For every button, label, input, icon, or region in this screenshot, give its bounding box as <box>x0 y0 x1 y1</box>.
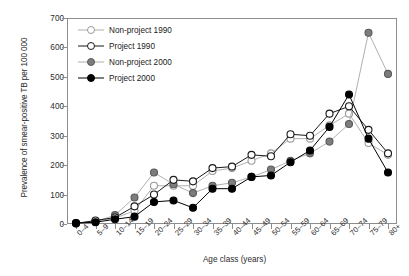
data-point <box>287 159 294 166</box>
data-point <box>131 213 138 220</box>
data-point <box>190 178 197 185</box>
data-point <box>248 173 255 180</box>
legend-key-icon <box>78 56 104 68</box>
data-point <box>365 135 372 142</box>
data-point <box>151 191 158 198</box>
data-point <box>346 120 353 127</box>
data-point <box>131 194 138 201</box>
y-tick-label: 300 <box>34 131 64 140</box>
data-point <box>73 220 80 227</box>
legend-label: Non-project 1990 <box>109 26 172 35</box>
y-tick-label: 700 <box>34 14 64 23</box>
data-point <box>385 169 392 176</box>
data-point <box>170 197 177 204</box>
data-point <box>268 172 275 179</box>
data-point <box>151 198 158 205</box>
y-tick-label: 600 <box>34 43 64 52</box>
data-point <box>209 165 216 172</box>
x-tick-label: 80+ <box>387 222 402 237</box>
data-point <box>287 131 294 138</box>
data-point <box>170 176 177 183</box>
legend-label: Project 1990 <box>109 42 155 51</box>
data-point <box>326 110 333 117</box>
legend-key-icon <box>78 24 104 36</box>
data-point <box>209 185 216 192</box>
legend-item-non-project-2000: Non-project 2000 <box>78 54 228 70</box>
legend-label: Project 2000 <box>109 74 155 83</box>
data-point <box>248 151 255 158</box>
data-point <box>326 138 333 145</box>
data-point <box>307 132 314 139</box>
y-tick-label: 400 <box>34 102 64 111</box>
series-project-2000 <box>73 91 392 227</box>
chart-figure: Prevalence of smear-positive TB per 100 … <box>0 0 409 276</box>
data-point <box>385 70 392 77</box>
y-tick-label: 200 <box>34 161 64 170</box>
data-point <box>131 203 138 210</box>
data-point <box>229 163 236 170</box>
data-point <box>307 147 314 154</box>
data-point <box>92 219 99 226</box>
data-point <box>229 185 236 192</box>
data-point <box>346 91 353 98</box>
data-point <box>112 216 119 223</box>
series-line <box>76 95 388 224</box>
legend-item-non-project-1990: Non-project 1990 <box>78 22 228 38</box>
data-point <box>365 29 372 36</box>
data-point <box>346 103 353 110</box>
data-point <box>385 150 392 157</box>
data-point <box>190 190 197 197</box>
y-axis-title: Prevalence of smear-positive TB per 100 … <box>20 8 29 228</box>
x-axis-title: Age class (years) <box>67 255 402 264</box>
y-tick-label: 100 <box>34 190 64 199</box>
series-project-1990 <box>73 103 392 227</box>
y-tick-label: 0 <box>34 220 64 229</box>
data-point <box>151 169 158 176</box>
legend-label: Non-project 2000 <box>109 58 172 67</box>
data-point <box>268 153 275 160</box>
legend-item-project-1990: Project 1990 <box>78 38 228 54</box>
data-point <box>326 123 333 130</box>
legend-item-project-2000: Project 2000 <box>78 70 228 86</box>
data-point <box>151 182 158 189</box>
legend-key-icon <box>78 72 104 84</box>
legend-key-icon <box>78 40 104 52</box>
y-tick-label: 500 <box>34 72 64 81</box>
y-tick-mark <box>62 224 67 225</box>
chart-legend: Non-project 1990Project 1990Non-project … <box>78 22 228 86</box>
data-point <box>190 204 197 211</box>
